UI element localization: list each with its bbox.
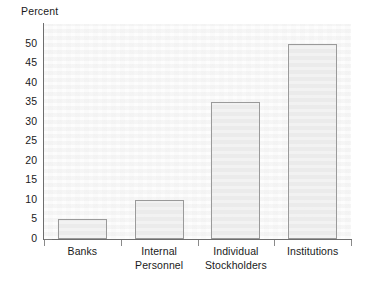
x-label-line: Individual (213, 245, 258, 257)
y-tick-label: 30 (25, 115, 37, 128)
x-tick-mark (351, 240, 352, 246)
y-tick-label: 50 (25, 37, 37, 50)
y-tick-label: 10 (25, 193, 37, 206)
bar (58, 219, 107, 239)
y-tick-label: 40 (25, 76, 37, 89)
x-label-line: Institutions (287, 245, 338, 257)
y-tick-label: 15 (25, 173, 37, 186)
x-axis-category-label: InternalPersonnel (121, 245, 198, 272)
bar (135, 200, 184, 239)
y-axis-title: Percent (21, 5, 58, 17)
y-tick-label: 0 (31, 232, 37, 245)
x-axis-category-label: Banks (44, 245, 121, 259)
y-tick-label: 45 (25, 56, 37, 69)
x-label-line: Internal (141, 245, 177, 257)
y-tick-label: 35 (25, 95, 37, 108)
plot-area (44, 24, 351, 239)
x-label-line: Banks (68, 245, 98, 257)
x-axis-category-label: Institutions (274, 245, 351, 259)
y-tick-label: 25 (25, 134, 37, 147)
bar-chart: Percent 05101520253035404550 BanksIntern… (0, 0, 376, 282)
bar (211, 102, 260, 239)
x-axis-category-label: IndividualStockholders (198, 245, 275, 272)
x-label-line: Personnel (121, 259, 198, 273)
x-label-line: Stockholders (198, 259, 275, 273)
y-tick-label: 20 (25, 154, 37, 167)
y-tick-label: 5 (31, 212, 37, 225)
bar (288, 44, 337, 239)
